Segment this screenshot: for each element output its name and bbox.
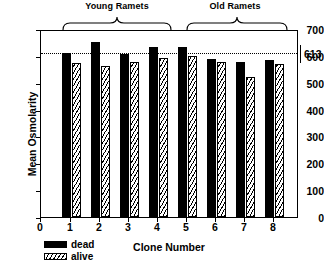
bar-dead-clone-5 — [178, 47, 187, 217]
group-bracket-layer: Young Ramets Old Ramets — [0, 0, 324, 34]
legend-item-alive: alive — [44, 250, 94, 262]
x-tick-mark-5 — [186, 218, 187, 222]
y-tick-mark-100 — [36, 191, 40, 192]
bar-alive-clone-8 — [275, 64, 284, 217]
x-tick-label-0: 0 — [37, 221, 43, 233]
bar-alive-clone-2 — [101, 66, 110, 217]
bar-alive-clone-1 — [72, 63, 81, 217]
legend-swatch-alive-icon — [44, 253, 67, 260]
y-tick-label-200: 200 — [291, 158, 324, 170]
y-tick-label-400: 400 — [291, 105, 324, 117]
bar-alive-clone-7 — [246, 77, 255, 217]
bar-dead-clone-7 — [236, 62, 245, 217]
x-tick-mark-7 — [244, 218, 245, 222]
y-tick-mark-600 — [36, 57, 40, 58]
bar-dead-clone-6 — [207, 59, 216, 217]
legend-item-dead: dead — [44, 238, 94, 250]
y-tick-label-300: 300 — [291, 131, 324, 143]
y-tick-mark-200 — [36, 164, 40, 165]
reference-line-613 — [41, 53, 297, 54]
group-bracket-curly-braces — [0, 0, 324, 34]
plot-area — [40, 30, 298, 218]
bar-alive-clone-4 — [159, 58, 168, 217]
legend-label-alive: alive — [71, 251, 93, 262]
legend: dead alive — [44, 238, 94, 262]
y-tick-label-700: 700 — [291, 24, 324, 36]
y-tick-label-0: 0 — [291, 212, 324, 224]
y-tick-label-100: 100 — [291, 185, 324, 197]
bar-dead-clone-4 — [149, 47, 158, 217]
bar-dead-clone-8 — [265, 60, 274, 217]
y-tick-label-500: 500 — [291, 78, 324, 90]
x-tick-mark-4 — [157, 218, 158, 222]
x-tick-mark-1 — [70, 218, 71, 222]
x-tick-label-5: 5 — [183, 221, 189, 233]
y-tick-mark-400 — [36, 111, 40, 112]
y-tick-mark-700 — [36, 30, 40, 31]
x-tick-mark-3 — [128, 218, 129, 222]
bar-dead-clone-3 — [120, 54, 129, 217]
bar-dead-clone-1 — [62, 53, 71, 217]
bar-alive-clone-6 — [217, 62, 226, 217]
x-tick-label-1: 1 — [67, 221, 73, 233]
x-tick-mark-8 — [273, 218, 274, 222]
x-tick-label-4: 4 — [154, 221, 160, 233]
reference-line-value-label: 613 — [304, 48, 322, 60]
x-tick-mark-6 — [215, 218, 216, 222]
bar-alive-clone-3 — [130, 62, 139, 217]
x-tick-mark-2 — [99, 218, 100, 222]
bar-alive-clone-5 — [188, 56, 197, 217]
reference-line-axis-tick — [300, 45, 301, 63]
plot-inner — [41, 31, 297, 217]
x-tick-label-6: 6 — [212, 221, 218, 233]
x-tick-label-7: 7 — [241, 221, 247, 233]
x-tick-label-2: 2 — [96, 221, 102, 233]
bar-dead-clone-2 — [91, 42, 100, 217]
x-tick-label-8: 8 — [270, 221, 276, 233]
x-tick-mark-0 — [40, 218, 41, 222]
y-tick-mark-500 — [36, 84, 40, 85]
legend-swatch-dead-icon — [44, 241, 67, 248]
y-tick-mark-300 — [36, 137, 40, 138]
x-tick-label-3: 3 — [125, 221, 131, 233]
legend-label-dead: dead — [71, 239, 94, 250]
